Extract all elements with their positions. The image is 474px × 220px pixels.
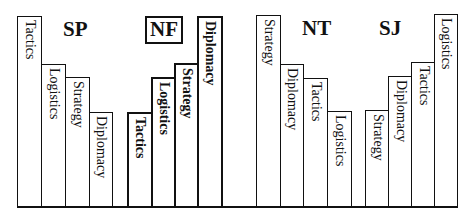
bar-label: Strategy <box>71 81 85 128</box>
bar-label: Strategy <box>180 68 194 119</box>
bar-label: Diplomacy <box>394 80 408 142</box>
group-label-sp: SP <box>63 19 88 40</box>
bar-sj-strategy: Strategy <box>365 110 390 207</box>
bar-sp-strategy: Strategy <box>65 77 90 207</box>
temperament-bar-chart: SP Tactics Logistics Strategy Diplomacy … <box>0 0 474 220</box>
bar-nt-diplomacy: Diplomacy <box>280 64 304 207</box>
bar-sj-tactics: Tactics <box>411 62 436 207</box>
bar-sj-diplomacy: Diplomacy <box>388 76 413 207</box>
bar-label: Strategy <box>262 19 276 66</box>
bar-nt-logistics: Logistics <box>327 111 352 207</box>
bar-sp-tactics: Tactics <box>17 16 42 207</box>
bar-label: Tactics <box>133 117 147 158</box>
bar-nt-strategy: Strategy <box>256 15 281 207</box>
bar-label: Diplomacy <box>203 21 217 86</box>
bar-label: Tactics <box>417 66 431 105</box>
bar-label: Diplomacy <box>94 116 108 178</box>
baseline-axis <box>17 206 458 208</box>
bar-label: Logistics <box>157 82 171 135</box>
bar-nf-tactics: Tactics <box>127 112 153 207</box>
bar-label: Tactics <box>23 20 37 59</box>
bar-nf-diplomacy: Diplomacy <box>197 16 223 207</box>
bar-label: Logistics <box>47 68 61 119</box>
bar-label: Logistics <box>439 18 453 69</box>
bar-label: Strategy <box>371 114 385 161</box>
group-label-nf: NF <box>145 16 183 44</box>
group-label-nt: NT <box>302 18 331 39</box>
bar-label: Logistics <box>333 115 347 166</box>
bar-label: Tactics <box>309 82 323 121</box>
group-label-sj: SJ <box>379 18 401 39</box>
bar-sp-diplomacy: Diplomacy <box>89 112 113 207</box>
bar-sj-logistics: Logistics <box>434 14 458 207</box>
bar-sp-logistics: Logistics <box>41 64 66 207</box>
bar-nt-tactics: Tactics <box>303 78 328 207</box>
bar-label: Diplomacy <box>285 68 299 130</box>
